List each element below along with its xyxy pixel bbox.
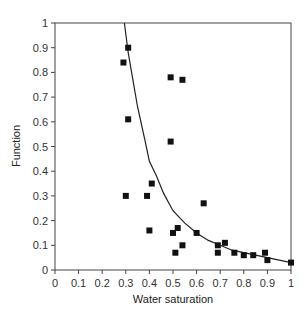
x-tick-label: 0.4 — [142, 277, 157, 289]
data-point-marker — [123, 193, 129, 199]
data-point-marker — [222, 240, 228, 246]
data-point-marker — [288, 260, 294, 266]
x-axis-ticks: 00.10.20.30.40.50.60.70.80.91 — [52, 270, 294, 289]
y-tick-label: 0.3 — [33, 190, 48, 202]
y-axis-label: Function — [10, 125, 22, 167]
y-tick-label: 0.7 — [33, 91, 48, 103]
x-tick-label: 0 — [52, 277, 58, 289]
y-tick-label: 0.1 — [33, 239, 48, 251]
data-point-marker — [179, 77, 185, 83]
x-tick-label: 0.5 — [165, 277, 180, 289]
data-point-marker — [144, 193, 150, 199]
y-tick-label: 0.6 — [33, 116, 48, 128]
data-point-marker — [125, 116, 131, 122]
x-tick-label: 0.9 — [260, 277, 275, 289]
data-point-marker — [231, 250, 237, 256]
y-tick-label: 0.5 — [33, 141, 48, 153]
data-point-marker — [215, 250, 221, 256]
data-point-marker — [262, 250, 268, 256]
data-points — [120, 45, 294, 266]
data-point-marker — [146, 227, 152, 233]
data-point-marker — [172, 250, 178, 256]
y-axis-ticks: 00.10.20.30.40.50.60.70.80.91 — [33, 17, 55, 276]
x-tick-label: 0.6 — [189, 277, 204, 289]
y-tick-label: 0.4 — [33, 165, 48, 177]
data-point-marker — [241, 252, 247, 258]
data-point-marker — [149, 181, 155, 187]
x-tick-label: 0.8 — [236, 277, 251, 289]
chart: 00.10.20.30.40.50.60.70.80.91 00.10.20.3… — [0, 0, 308, 321]
x-tick-label: 0.3 — [118, 277, 133, 289]
y-tick-label: 1 — [42, 17, 48, 29]
data-point-marker — [264, 257, 270, 263]
y-tick-label: 0.9 — [33, 42, 48, 54]
x-tick-label: 0.1 — [71, 277, 86, 289]
data-point-marker — [194, 230, 200, 236]
fitted-curve — [124, 23, 291, 263]
x-tick-label: 0.2 — [95, 277, 110, 289]
x-axis-label: Water saturation — [133, 293, 213, 305]
x-tick-label: 1 — [288, 277, 294, 289]
data-point-marker — [168, 74, 174, 80]
data-point-marker — [125, 45, 131, 51]
data-point-marker — [168, 139, 174, 145]
data-point-marker — [215, 242, 221, 248]
data-point-marker — [250, 252, 256, 258]
data-point-marker — [201, 200, 207, 206]
data-point-marker — [170, 230, 176, 236]
data-point-marker — [120, 60, 126, 66]
data-point-marker — [179, 242, 185, 248]
x-tick-label: 0.7 — [213, 277, 228, 289]
y-tick-label: 0 — [42, 264, 48, 276]
y-tick-label: 0.2 — [33, 215, 48, 227]
y-tick-label: 0.8 — [33, 66, 48, 78]
